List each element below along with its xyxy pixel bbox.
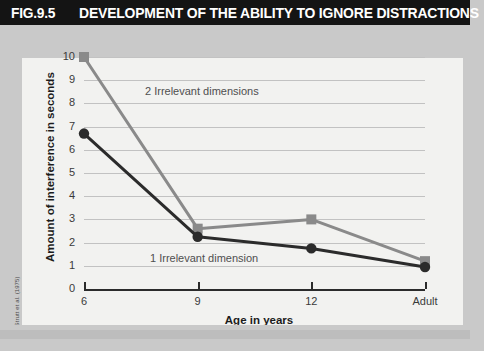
series-annotation-label: 1 Irrelevant dimension (150, 252, 258, 264)
data-point-marker (306, 243, 316, 253)
data-point-marker (79, 52, 89, 62)
data-point-marker (306, 214, 316, 224)
data-point-marker (420, 262, 430, 272)
data-point-marker (79, 128, 89, 138)
series-annotation-label: 2 Irrelevant dimensions (145, 85, 259, 97)
data-point-marker (192, 232, 202, 242)
footer-stripe (0, 330, 470, 339)
series-line (84, 134, 425, 267)
